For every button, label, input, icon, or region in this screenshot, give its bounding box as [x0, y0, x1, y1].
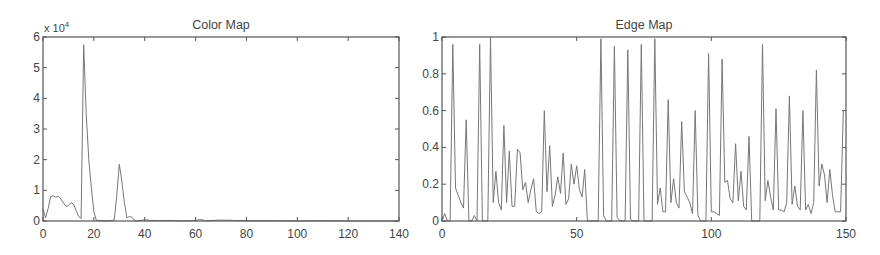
x-tick-label: 100 [701, 227, 721, 241]
x-tick-label: 0 [439, 227, 446, 241]
edge-map-title: Edge Map [616, 18, 673, 32]
y-tick-label: 0 [33, 214, 40, 228]
x-tick-label: 120 [338, 227, 358, 241]
x-tick-label: 140 [389, 227, 409, 241]
x-tick-label: 150 [836, 227, 856, 241]
x-tick-label: 100 [287, 227, 307, 241]
x-tick-label: 20 [87, 227, 101, 241]
x-tick-label: 60 [189, 227, 203, 241]
color-map-line [43, 45, 399, 221]
y-tick-label: 0.8 [422, 67, 439, 81]
color-map-chart: Color Map x 104 020406080100120140012345… [33, 18, 409, 241]
y-tick-label: 1 [33, 183, 40, 197]
y-tick-label: 0 [432, 214, 439, 228]
color-map-title: Color Map [192, 18, 250, 32]
x-tick-label: 0 [40, 227, 47, 241]
y-tick-label: 0.6 [422, 104, 439, 118]
y-tick-label: 4 [33, 91, 40, 105]
y-tick-label: 5 [33, 61, 40, 75]
y-tick-label: 3 [33, 122, 40, 136]
y-tick-label: 0.2 [422, 177, 439, 191]
y-tick-label: 2 [33, 153, 40, 167]
y-multiplier-label: x 104 [44, 20, 70, 34]
y-tick-label: 0.4 [422, 140, 439, 154]
x-tick-label: 50 [570, 227, 584, 241]
y-tick-label: 6 [33, 30, 40, 44]
x-tick-label: 40 [138, 227, 152, 241]
color-map-frame [43, 37, 399, 221]
color-map-axes: 0204060801001201400123456 [33, 30, 409, 241]
edge-map-chart: Edge Map 05010015000.20.40.60.81 [422, 18, 856, 241]
edge-map-axes: 05010015000.20.40.60.81 [422, 30, 856, 241]
x-tick-label: 80 [240, 227, 254, 241]
edge-map-line [442, 37, 843, 221]
y-tick-label: 1 [432, 30, 439, 44]
figure: Color Map x 104 020406080100120140012345… [0, 0, 880, 255]
